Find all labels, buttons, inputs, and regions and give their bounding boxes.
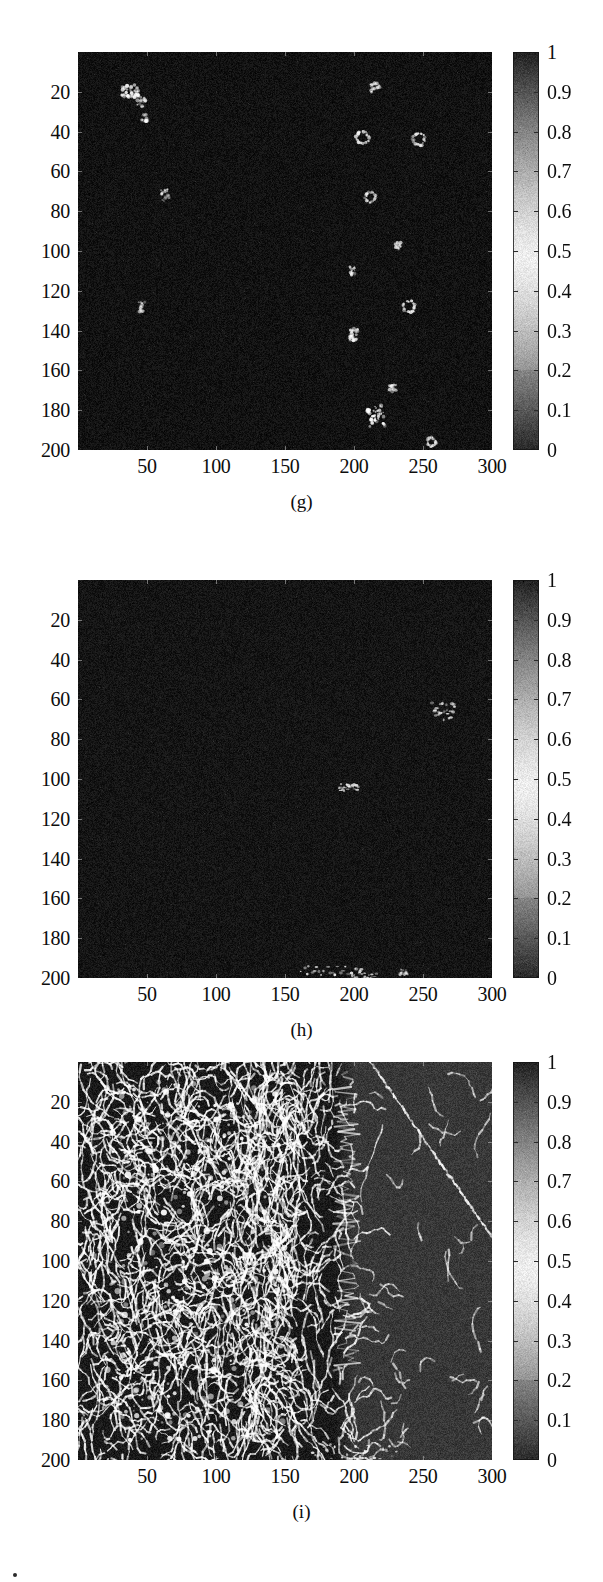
heatmap-canvas-h — [78, 580, 492, 978]
heatmap-image-h[interactable] — [78, 580, 492, 978]
colorbar-tick-label: 0.5 — [547, 241, 571, 261]
colorbar-tick — [513, 699, 518, 700]
colorbar-tick-label: 0.6 — [547, 1211, 571, 1231]
colorbar-tick — [534, 410, 539, 411]
colorbar-tick — [534, 938, 539, 939]
y-tick-label: 40 — [51, 1132, 70, 1152]
y-tick-label: 60 — [51, 161, 70, 181]
colorbar-tick — [534, 92, 539, 93]
colorbar-tick — [534, 660, 539, 661]
colorbar-tick — [534, 1301, 539, 1302]
panel-caption-i: (i) — [0, 1502, 603, 1521]
colorbar-tick-label: 0.9 — [547, 610, 571, 630]
y-tick-label: 140 — [41, 849, 70, 869]
colorbar-tick-label: 0.3 — [547, 849, 571, 869]
colorbar-tick — [534, 699, 539, 700]
colorbar-tick-label: 0 — [547, 1450, 557, 1470]
colorbar-tick-label: 0.2 — [547, 888, 571, 908]
colorbar-tick — [534, 739, 539, 740]
colorbar-tick-label: 0.2 — [547, 1370, 571, 1390]
x-tick-label: 100 — [201, 984, 230, 1004]
y-tick-label: 200 — [41, 1450, 70, 1470]
colorbar-tick-label: 0.4 — [547, 1291, 571, 1311]
y-tick-label: 20 — [51, 610, 70, 630]
colorbar-tick-label: 0.3 — [547, 321, 571, 341]
colorbar-tick — [534, 819, 539, 820]
x-tick-label: 100 — [201, 1466, 230, 1486]
colorbar-tick — [513, 1181, 518, 1182]
colorbar-tick — [513, 1420, 518, 1421]
y-axis-ticks-g: 20406080100120140160180200 — [8, 52, 70, 450]
heatmap-canvas-g — [78, 52, 492, 450]
colorbar-tick — [534, 1142, 539, 1143]
x-tick-label: 150 — [270, 984, 299, 1004]
colorbar-tick — [534, 898, 539, 899]
colorbar-tick-label: 0.8 — [547, 122, 571, 142]
colorbar-tick — [534, 1102, 539, 1103]
colorbar-tick — [513, 620, 518, 621]
panel-h: 20406080100120140160180200 5010015020025… — [0, 528, 603, 1040]
y-tick-label: 140 — [41, 321, 70, 341]
colorbar-tick-label: 0.4 — [547, 281, 571, 301]
y-tick-label: 180 — [41, 928, 70, 948]
x-tick-label: 250 — [408, 1466, 437, 1486]
colorbar-tick — [513, 859, 518, 860]
colorbar-tick — [513, 410, 518, 411]
heatmap-image-g[interactable] — [78, 52, 492, 450]
colorbar-tick — [513, 1142, 518, 1143]
colorbar-tick-label: 1 — [547, 42, 557, 62]
colorbar-tick — [513, 1102, 518, 1103]
y-tick-label: 160 — [41, 1370, 70, 1390]
y-tick-label: 80 — [51, 729, 70, 749]
colorbar-tick-label: 0 — [547, 440, 557, 460]
x-axis-ticks-h: 50100150200250300 — [78, 984, 492, 1010]
panel-g: 20406080100120140160180200 5010015020025… — [0, 0, 603, 530]
x-tick-label: 300 — [477, 984, 506, 1004]
colorbar-tick — [534, 1341, 539, 1342]
colorbar-tick-label: 0.1 — [547, 1410, 571, 1430]
colorbar-tick — [513, 1341, 518, 1342]
colorbar-h[interactable]: 10.90.80.70.60.50.40.30.20.10 — [513, 580, 539, 978]
colorbar-tick — [513, 1221, 518, 1222]
colorbar-tick-label: 0.6 — [547, 729, 571, 749]
colorbar-tick-label: 0.8 — [547, 650, 571, 670]
colorbar-tick — [513, 779, 518, 780]
x-tick-label: 150 — [270, 1466, 299, 1486]
panel-caption-g: (g) — [0, 492, 603, 511]
x-tick-label: 50 — [137, 456, 156, 476]
y-tick-label: 60 — [51, 689, 70, 709]
panel-i: 20406080100120140160180200 5010015020025… — [0, 1010, 603, 1550]
y-tick-label: 200 — [41, 968, 70, 988]
y-tick-label: 20 — [51, 82, 70, 102]
y-tick-label: 160 — [41, 360, 70, 380]
colorbar-tick — [534, 620, 539, 621]
y-tick-label: 200 — [41, 440, 70, 460]
colorbar-tick-label: 0.3 — [547, 1331, 571, 1351]
x-axis-ticks-i: 50100150200250300 — [78, 1466, 492, 1492]
x-tick-label: 300 — [477, 1466, 506, 1486]
y-tick-label: 120 — [41, 281, 70, 301]
colorbar-tick — [513, 251, 518, 252]
x-tick-label: 200 — [339, 1466, 368, 1486]
colorbar-tick — [534, 1181, 539, 1182]
colorbar-tick — [513, 331, 518, 332]
colorbar-tick — [513, 819, 518, 820]
y-tick-label: 100 — [41, 1251, 70, 1271]
colorbar-tick — [534, 291, 539, 292]
colorbar-tick-label: 0.7 — [547, 689, 571, 709]
colorbar-tick — [534, 1380, 539, 1381]
page-corner-mark — [13, 1573, 17, 1577]
colorbar-i[interactable]: 10.90.80.70.60.50.40.30.20.10 — [513, 1062, 539, 1460]
x-tick-label: 250 — [408, 456, 437, 476]
y-tick-label: 140 — [41, 1331, 70, 1351]
colorbar-tick-label: 1 — [547, 570, 557, 590]
figure-root: 20406080100120140160180200 5010015020025… — [0, 0, 603, 1582]
colorbar-tick — [513, 938, 518, 939]
y-tick-label: 100 — [41, 241, 70, 261]
colorbar-tick-label: 0.8 — [547, 1132, 571, 1152]
colorbar-tick — [534, 1261, 539, 1262]
colorbar-g[interactable]: 10.90.80.70.60.50.40.30.20.10 — [513, 52, 539, 450]
colorbar-tick-label: 1 — [547, 1052, 557, 1072]
heatmap-image-i[interactable] — [78, 1062, 492, 1460]
colorbar-tick-label: 0.4 — [547, 809, 571, 829]
